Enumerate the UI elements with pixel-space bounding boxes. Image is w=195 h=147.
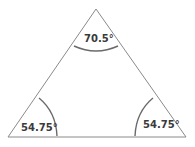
angle-arc-bottom-right: [135, 98, 153, 136]
edge-right: [96, 9, 186, 137]
angle-label-top: 70.5°: [84, 33, 114, 44]
triangle-diagram: 70.5° 54.75° 54.75°: [0, 0, 195, 147]
edge-left: [8, 9, 96, 137]
angle-label-bottom-right: 54.75°: [143, 119, 180, 130]
angle-arc-top: [74, 46, 118, 51]
angle-label-bottom-left: 54.75°: [21, 122, 58, 133]
